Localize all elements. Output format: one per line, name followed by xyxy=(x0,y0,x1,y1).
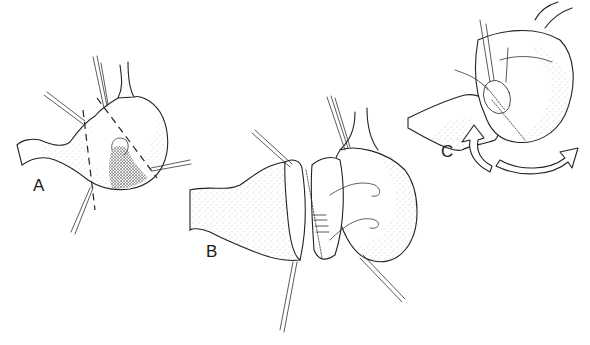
panel-c-drawing xyxy=(408,2,578,174)
panel-label-c: C xyxy=(441,143,453,160)
surgical-illustration: A B C xyxy=(0,0,590,345)
panel-label-a: A xyxy=(33,177,44,194)
panel-label-b: B xyxy=(206,243,217,260)
illustration-drawing xyxy=(0,0,590,345)
panel-b-drawing xyxy=(190,96,420,332)
panel-a-drawing xyxy=(17,56,191,234)
